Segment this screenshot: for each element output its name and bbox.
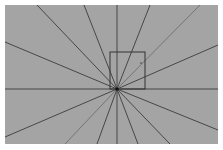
marker-dot — [140, 62, 142, 64]
radial-diagram — [0, 0, 223, 150]
center-point — [115, 87, 118, 90]
